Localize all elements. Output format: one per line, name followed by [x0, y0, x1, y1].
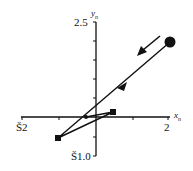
y-max-label: 2.5	[74, 17, 88, 28]
square-marker-2	[110, 109, 116, 115]
square-marker-1	[55, 135, 61, 141]
iteration-path	[58, 42, 170, 138]
x-min-label: Š2	[16, 122, 28, 133]
start-point-marker	[165, 37, 176, 48]
x-max-label: 2	[164, 122, 170, 133]
y-axis-label: yn	[91, 9, 98, 20]
end-point-marker	[84, 115, 88, 119]
phase-plot	[0, 0, 193, 171]
y-min-label: Š1.0	[71, 151, 91, 162]
direction-arrow-shaft	[143, 36, 160, 50]
x-axis-label: xn	[174, 111, 181, 122]
